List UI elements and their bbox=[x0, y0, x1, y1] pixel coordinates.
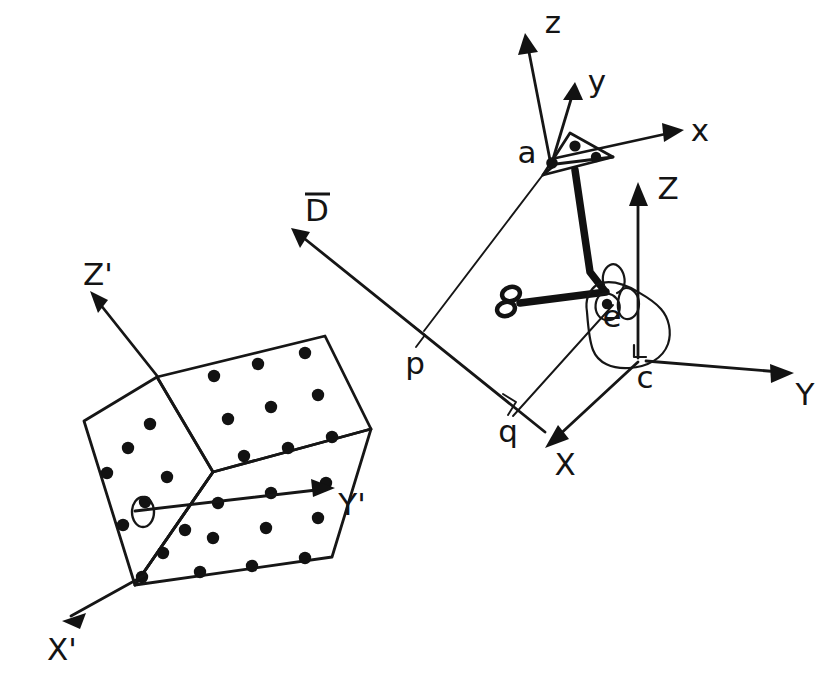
target-y-axis-line bbox=[553, 96, 572, 159]
world-x-axis-line bbox=[71, 575, 145, 616]
camera-y-axis-line bbox=[646, 361, 780, 372]
point-q-label: q bbox=[498, 413, 518, 449]
world-z-axis-label: Z' bbox=[83, 256, 113, 292]
target-z-axis-arrowhead bbox=[518, 33, 538, 55]
cube-wireframe bbox=[84, 336, 371, 585]
camera-y-axis-label: Y bbox=[795, 376, 815, 412]
camera-z-axis-label: Z bbox=[657, 170, 678, 206]
target-y-axis-arrowhead bbox=[563, 82, 583, 100]
target-plate-dot-3 bbox=[546, 157, 558, 169]
cube-top-face-dots bbox=[208, 347, 338, 462]
target-origin-label: a bbox=[518, 134, 537, 170]
link-e-to-pointer bbox=[520, 292, 606, 303]
target-z-axis-label: z bbox=[545, 4, 561, 40]
camera-origin-label: c bbox=[636, 359, 653, 395]
link-a-to-e bbox=[575, 170, 604, 290]
cube-top-face bbox=[157, 336, 371, 472]
cube-left-face-dots bbox=[101, 418, 191, 583]
target-x-axis-arrowhead bbox=[662, 123, 684, 142]
world-y-axis-line bbox=[135, 489, 325, 511]
world-y-axis-label: Y' bbox=[337, 486, 365, 522]
figure-root: Z' Y' X' O D p q bbox=[0, 0, 837, 679]
d-vector-arrowhead bbox=[291, 228, 310, 248]
calibration-cube bbox=[84, 336, 371, 585]
target-plate-dot-1 bbox=[569, 140, 580, 151]
cube-bottom-face-dots bbox=[194, 477, 332, 578]
camera-x-axis-label: X bbox=[554, 446, 575, 482]
camera-origin-tick bbox=[634, 345, 646, 357]
point-p-label: p bbox=[405, 345, 425, 381]
camera-x-axis-line bbox=[556, 362, 638, 438]
d-vector-label: D bbox=[305, 192, 329, 228]
target-x-axis-label: x bbox=[691, 112, 709, 148]
eye-point-label: e bbox=[602, 298, 621, 334]
target-y-axis-label: y bbox=[588, 63, 606, 99]
world-z-axis-line bbox=[96, 299, 158, 377]
target-plate-dot-2 bbox=[591, 152, 601, 162]
cube-left-face bbox=[84, 377, 213, 585]
camera-y-axis-arrowhead bbox=[770, 364, 794, 383]
perpendicular-a-to-p bbox=[424, 172, 545, 331]
world-axes bbox=[62, 291, 335, 629]
camera-z-axis-arrowhead bbox=[629, 182, 648, 206]
world-x-axis-label: X' bbox=[47, 631, 77, 667]
technical-diagram: Z' Y' X' O D p q bbox=[0, 0, 837, 679]
